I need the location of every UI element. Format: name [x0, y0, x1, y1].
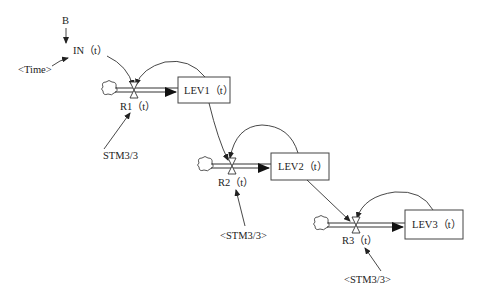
arrow-stm-to-r1	[104, 113, 130, 149]
variable-in: IN（t）	[73, 45, 107, 56]
source-cloud-2	[198, 157, 214, 171]
arrow-time-to-in	[52, 58, 68, 66]
stock-lev1-label: LEV1（t）	[184, 85, 233, 96]
arrow-stm-to-r3	[365, 248, 381, 271]
variable-stm-3: <STM3/3>	[344, 274, 391, 285]
source-cloud-3	[314, 216, 330, 230]
arrow-lev1-to-r2	[209, 103, 228, 160]
variable-stm-2: <STM3/3>	[220, 230, 267, 241]
valve-r2-icon	[228, 158, 236, 174]
variable-time: <Time>	[18, 64, 52, 75]
arrow-stm-to-r2	[236, 190, 245, 226]
source-cloud-1	[102, 81, 118, 95]
arrow-lev2-to-r3	[307, 180, 350, 221]
variable-b: B	[62, 15, 69, 26]
valve-r3-icon	[352, 217, 360, 233]
rate-r1-label: R1（t）	[120, 101, 155, 112]
stock-lev3-label: LEV3（t）	[412, 219, 461, 230]
valve-r1-icon	[130, 82, 138, 98]
variable-stm-1: STM3/3	[103, 150, 138, 161]
rate-r2-label: R2（t）	[218, 177, 253, 188]
stock-flow-diagram: B IN（t） <Time> LEV1（t） R1（t） STM3/3 LEV2…	[0, 0, 480, 300]
stock-lev2-label: LEV2（t）	[278, 161, 327, 172]
rate-r3-label: R3（t）	[342, 235, 377, 246]
